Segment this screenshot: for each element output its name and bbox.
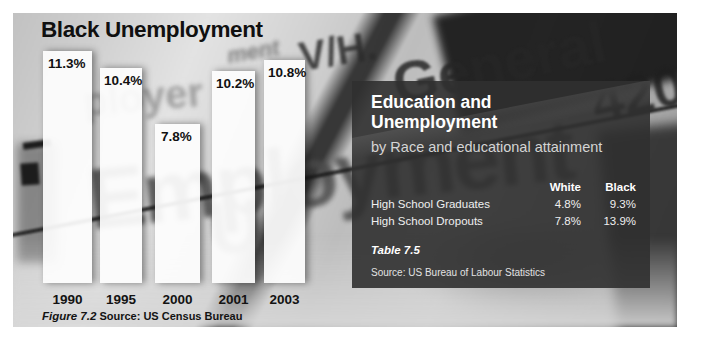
page-title: Black Unemployment — [41, 17, 263, 43]
table-row: High School Graduates 4.8% 9.3% — [371, 195, 636, 212]
bar-value-label: 11.3% — [48, 56, 86, 71]
bar-value-label: 10.8% — [268, 65, 306, 80]
figure-caption: Figure 7.2 Source: US Census Bureau — [42, 310, 242, 322]
row-label-graduates: High School Graduates — [371, 195, 523, 212]
row-label-dropouts: High School Dropouts — [371, 212, 523, 229]
bar-1990 — [43, 51, 92, 283]
table-source: Source: US Bureau of Labour Statistics — [371, 267, 545, 278]
education-unemployment-panel: Education and Unemployment by Race and e… — [352, 81, 650, 288]
bar-2000 — [155, 124, 200, 283]
figure-container: ployer Employment U ment V/H. General 42… — [0, 0, 705, 349]
axis-label-1995: 1995 — [100, 292, 142, 307]
bar-1995 — [100, 68, 142, 283]
cell-dropouts-white: 7.8% — [523, 212, 581, 229]
axis-label-1990: 1990 — [43, 292, 92, 307]
panel-title: Education and Unemployment — [371, 93, 497, 133]
figure-number: Figure 7.2 — [42, 310, 96, 322]
table-header-row: White Black — [371, 178, 636, 195]
bar-value-label: 7.8% — [161, 129, 192, 144]
axis-label-2000: 2000 — [155, 292, 200, 307]
axis-label-2003: 2003 — [264, 292, 305, 307]
cell-graduates-white: 4.8% — [523, 195, 581, 212]
bar-2003 — [264, 60, 305, 283]
panel-subtitle: by Race and educational attainment — [371, 139, 602, 155]
figure-source: Source: US Census Bureau — [99, 310, 242, 322]
table-row: High School Dropouts 7.8% 13.9% — [371, 212, 636, 229]
axis-label-2001: 2001 — [212, 292, 255, 307]
bar-value-label: 10.4% — [104, 73, 142, 88]
bar-2001 — [212, 71, 255, 283]
cell-graduates-black: 9.3% — [581, 195, 636, 212]
statistics-table: White Black High School Graduates 4.8% 9… — [371, 178, 636, 229]
cell-dropouts-black: 13.9% — [581, 212, 636, 229]
column-header-blank — [371, 178, 523, 195]
bar-value-label: 10.2% — [216, 76, 254, 91]
column-header-white: White — [523, 178, 581, 195]
table-number: Table 7.5 — [371, 244, 420, 256]
column-header-black: Black — [581, 178, 636, 195]
